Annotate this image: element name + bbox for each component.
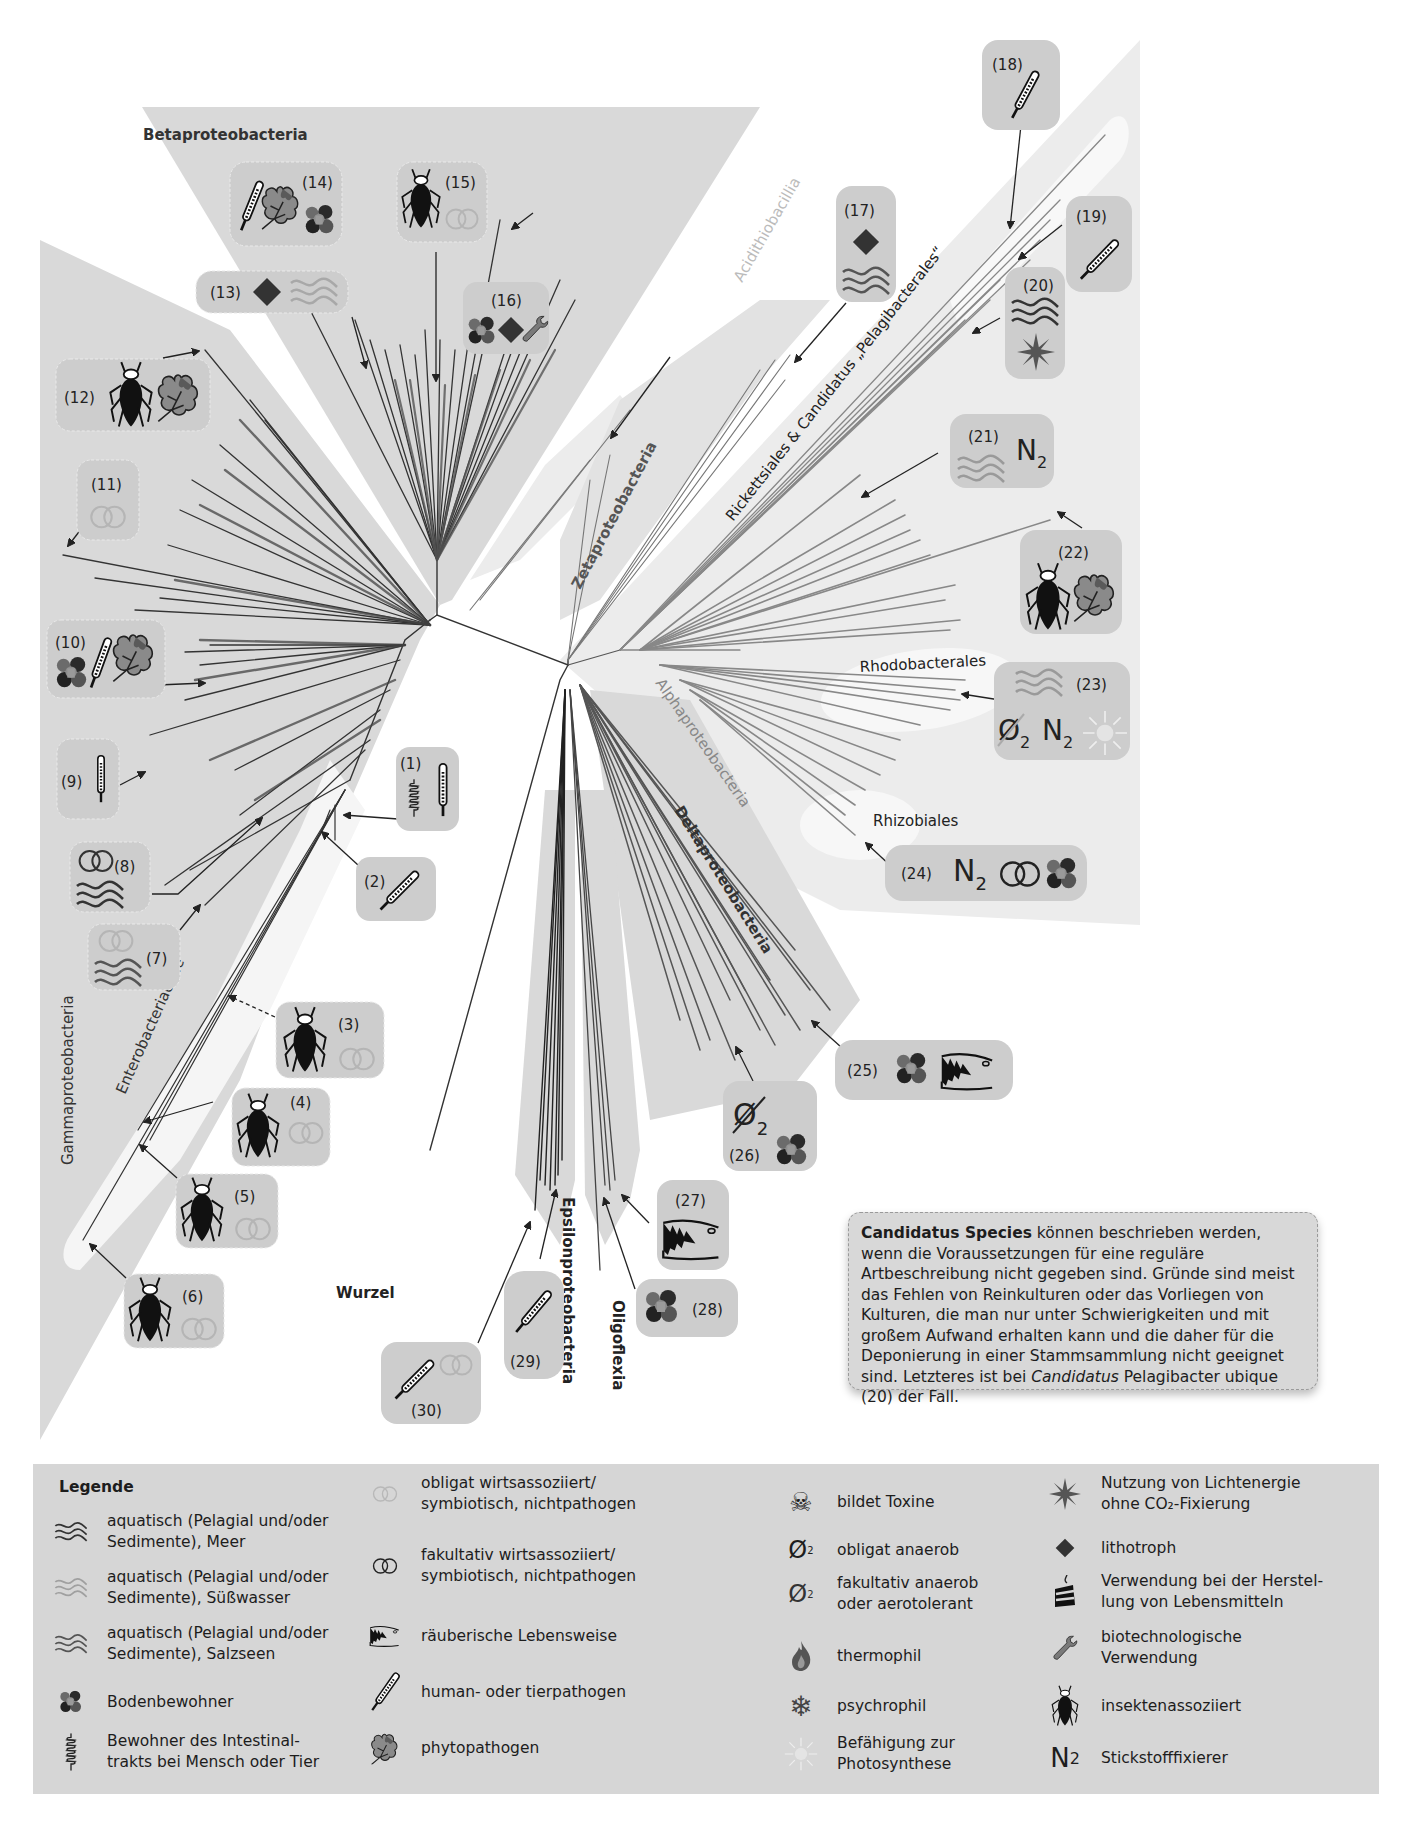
legend-item-rings-facultative: fakultativ wirtsassoziiert/ symbiotisch,… — [363, 1544, 636, 1588]
callout-14: (14) — [230, 162, 342, 246]
callout-7: (7) — [88, 924, 180, 990]
svg-text:(29): (29) — [510, 1353, 541, 1371]
svg-text:(2): (2) — [364, 873, 385, 891]
legend-item-rings-obligate: obligat wirtsassoziiert/ symbiotisch, ni… — [363, 1472, 636, 1516]
wrench-icon — [1043, 1626, 1087, 1670]
svg-text:(12): (12) — [64, 389, 95, 407]
callout-8: (8) — [70, 842, 150, 912]
o2-facultative-icon: Ø2 — [779, 1572, 823, 1616]
callout-10: (10) — [47, 620, 165, 698]
predator-icon — [363, 1614, 407, 1658]
legend-item-predator: räuberische Lebensweise — [363, 1614, 617, 1658]
diamond-icon — [1043, 1526, 1087, 1570]
soil-icon — [49, 1680, 93, 1724]
svg-text:(7): (7) — [146, 950, 167, 968]
legend-item-waves-salt: aquatisch (Pelagial und/oder Sedimente),… — [49, 1622, 328, 1666]
svg-text:(28): (28) — [692, 1301, 723, 1319]
intestine-icon — [49, 1730, 93, 1774]
svg-text:(18): (18) — [992, 56, 1023, 74]
callout-19: (19) — [1066, 196, 1132, 292]
insect-icon — [1043, 1684, 1087, 1728]
legend-item-thermometer: human- oder tierpathogen — [363, 1670, 626, 1714]
callout-29: (29) — [504, 1271, 564, 1379]
svg-text:(27): (27) — [675, 1192, 706, 1210]
callout-23: (23) Ø2 N2 — [994, 662, 1130, 760]
svg-text:(3): (3) — [338, 1016, 359, 1034]
thermometer-icon — [363, 1670, 407, 1714]
legend-item-o2-obligate: Ø2 obligat anaerob — [779, 1528, 959, 1572]
callout-3: (3) — [276, 1002, 384, 1078]
label-oligo: Oligoflexia — [609, 1300, 627, 1390]
flame-icon — [779, 1634, 823, 1678]
callout-25: (25) — [835, 1040, 1013, 1100]
legend-item-wrench: biotechnologische Verwendung — [1043, 1626, 1242, 1670]
svg-text:(23): (23) — [1076, 676, 1107, 694]
waves-sea-icon — [49, 1510, 93, 1554]
svg-text:(24): (24) — [901, 865, 932, 883]
rings-obligate-icon — [363, 1472, 407, 1516]
legend-item-sun: Befähigung zur Photosynthese — [779, 1732, 955, 1776]
callout-13: (13) — [196, 271, 348, 313]
callout-21: (21) N2 — [950, 414, 1054, 488]
svg-text:(10): (10) — [55, 634, 86, 652]
callout-27: (27) — [657, 1180, 729, 1270]
callout-26: Ø2 (26) — [723, 1081, 817, 1171]
callout-17: (17) — [836, 186, 896, 302]
callout-20: (20) — [1005, 267, 1065, 379]
info-box-text: können beschrieben werden, wenn die Vora… — [861, 1224, 1295, 1386]
leaf-icon — [363, 1726, 407, 1770]
svg-text:(15): (15) — [445, 174, 476, 192]
star-icon — [1043, 1472, 1087, 1516]
callout-5: (5) — [176, 1174, 278, 1248]
svg-text:(13): (13) — [210, 284, 241, 302]
svg-text:(6): (6) — [182, 1288, 203, 1306]
legend-item-o2-facultative: Ø2 fakultativ anaerob oder aerotolerant — [779, 1572, 978, 1616]
legend-item-n2: N2 Stickstofffixierer — [1043, 1736, 1228, 1780]
legend-item-flame: thermophil — [779, 1634, 921, 1678]
waves-salt-icon — [49, 1622, 93, 1666]
callout-1: (1) — [396, 747, 459, 831]
svg-text:(9): (9) — [61, 773, 82, 791]
legend-item-skull: ☠ bildet Toxine — [779, 1480, 935, 1524]
legend-item-intestine: Bewohner des Intestinal- trakts bei Mens… — [49, 1730, 319, 1774]
svg-text:(17): (17) — [844, 202, 875, 220]
callout-12: (12) — [56, 359, 210, 431]
legend-item-snowflake: ❄ psychrophil — [779, 1684, 926, 1728]
callout-18: (18) — [982, 40, 1060, 130]
svg-text:(20): (20) — [1023, 277, 1054, 295]
legend-item-star: Nutzung von Lichtenergie ohne CO₂-Fixier… — [1043, 1472, 1301, 1516]
legend-item-soil: Bodenbewohner — [49, 1680, 233, 1724]
callout-16: (16) — [463, 282, 549, 354]
callout-9: (9) — [57, 739, 119, 819]
snowflake-icon: ❄ — [779, 1684, 823, 1728]
callout-22: (22) — [1020, 530, 1122, 634]
legend-item-insect: insektenassoziiert — [1043, 1684, 1241, 1728]
rings-facultative-icon — [363, 1544, 407, 1588]
callout-28: (28) — [636, 1279, 738, 1337]
label-gamma: Gammaproteobacteria — [59, 995, 77, 1165]
svg-text:(8): (8) — [114, 858, 135, 876]
info-box-heading: Candidatus Species — [861, 1224, 1032, 1242]
callout-24: (24) N2 — [885, 845, 1087, 901]
callout-30: (30) — [381, 1342, 481, 1424]
legend-title: Legende — [59, 1478, 134, 1496]
svg-text:(21): (21) — [968, 428, 999, 446]
legend-item-leaf: phytopathogen — [363, 1726, 539, 1770]
svg-text:(4): (4) — [290, 1094, 311, 1112]
n2-icon: N2 — [1043, 1736, 1087, 1780]
cake-icon — [1043, 1570, 1087, 1614]
svg-text:(5): (5) — [234, 1188, 255, 1206]
info-box-italic: Candidatus — [1031, 1368, 1119, 1386]
waves-fresh-icon — [49, 1566, 93, 1610]
svg-text:(14): (14) — [302, 174, 333, 192]
callout-2: (2) — [356, 857, 436, 921]
candidatus-info-box: Candidatus Species können beschrieben we… — [848, 1212, 1318, 1390]
sun-icon — [1083, 711, 1127, 755]
callout-6: (6) — [124, 1274, 224, 1348]
svg-text:(30): (30) — [411, 1402, 442, 1420]
svg-text:(16): (16) — [491, 292, 522, 310]
skull-icon: ☠ — [779, 1480, 823, 1524]
svg-text:(26): (26) — [729, 1147, 760, 1165]
svg-text:(19): (19) — [1076, 208, 1107, 226]
label-root: Wurzel — [336, 1284, 395, 1302]
